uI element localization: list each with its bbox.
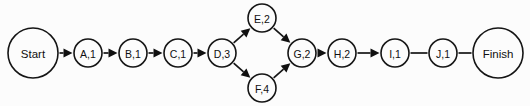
node-label-h: H,2 <box>334 48 351 60</box>
arrowhead-c-to-d <box>198 49 207 58</box>
nodes-layer: StartA,1B,1C,1D,3E,2F,4G,2H,2I,1J,1Finis… <box>8 4 523 102</box>
node-label-d: D,3 <box>214 48 231 60</box>
node-label-i: I,1 <box>389 48 401 60</box>
node-label-f: F,4 <box>255 83 269 95</box>
network-diagram-canvas: StartA,1B,1C,1D,3E,2F,4G,2H,2I,1J,1Finis… <box>0 0 530 106</box>
node-c[interactable]: C,1 <box>164 39 192 67</box>
arrowhead-a-to-b <box>109 49 118 58</box>
node-j[interactable]: J,1 <box>429 39 457 67</box>
node-label-g: G,2 <box>294 48 311 60</box>
node-e[interactable]: E,2 <box>248 4 276 32</box>
node-h[interactable]: H,2 <box>328 39 356 67</box>
arrowhead-g-to-h <box>318 49 327 58</box>
node-g[interactable]: G,2 <box>288 39 316 67</box>
node-label-start: Start <box>21 48 46 60</box>
node-label-a: A,1 <box>80 48 96 60</box>
node-label-e: E,2 <box>254 13 270 25</box>
node-label-b: B,1 <box>125 48 141 60</box>
node-finish[interactable]: Finish <box>473 28 523 78</box>
edge-f-to-g <box>274 69 284 78</box>
arrowhead-start-to-a <box>64 49 73 58</box>
edge-e-to-g <box>274 28 284 37</box>
node-label-finish: Finish <box>483 48 514 60</box>
network-diagram: StartA,1B,1C,1D,3E,2F,4G,2H,2I,1J,1Finis… <box>0 0 530 106</box>
arrowhead-b-to-c <box>154 49 163 58</box>
arrowhead-h-to-i <box>371 49 380 58</box>
node-i[interactable]: I,1 <box>381 39 409 67</box>
node-label-j: J,1 <box>436 48 450 60</box>
node-start[interactable]: Start <box>8 28 58 78</box>
node-f[interactable]: F,4 <box>248 74 276 102</box>
edge-d-to-e <box>234 34 244 43</box>
edge-d-to-f <box>234 63 244 72</box>
node-a[interactable]: A,1 <box>74 39 102 67</box>
node-d[interactable]: D,3 <box>208 39 236 67</box>
node-b[interactable]: B,1 <box>119 39 147 67</box>
node-label-c: C,1 <box>170 48 187 60</box>
